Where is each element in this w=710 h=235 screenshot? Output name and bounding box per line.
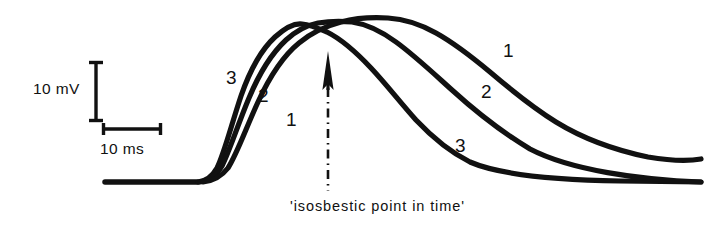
curve-3-trace	[198, 24, 701, 182]
isosbestic-point-arrow	[322, 51, 333, 191]
isosbestic-point-figure: 3 2 1 1 2 3 10 mV 10 ms 'isosbestic poin…	[0, 0, 710, 235]
curve-2-trace	[200, 21, 701, 182]
curve-label-right-3: 3	[455, 136, 466, 155]
curve-1-trace	[203, 18, 701, 182]
vertical-scale-label: 10 mV	[33, 81, 80, 97]
figure-caption: 'isosbestic point in time'	[290, 199, 465, 214]
horizontal-scale-label: 10 ms	[100, 141, 144, 157]
curve-label-right-2: 2	[481, 82, 492, 101]
curve-label-right-1: 1	[503, 41, 514, 60]
vertical-scale-bar	[89, 62, 103, 121]
curve-label-left-1: 1	[286, 110, 297, 129]
horizontal-scale-bar	[103, 123, 161, 135]
curve-label-left-2: 2	[258, 86, 269, 105]
curve-label-left-3: 3	[226, 68, 237, 87]
